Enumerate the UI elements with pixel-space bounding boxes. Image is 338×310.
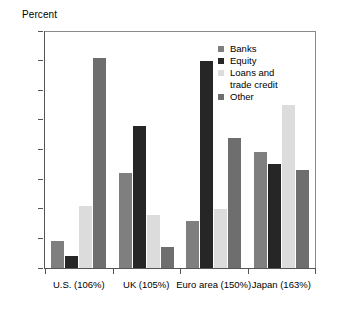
bar — [51, 241, 64, 268]
x-tick-mark — [315, 269, 316, 274]
x-tick-label: Japan (163%) — [221, 279, 338, 290]
bar — [254, 152, 267, 268]
y-tick-mark — [38, 60, 43, 61]
legend-swatch-icon — [218, 94, 224, 100]
legend-item: Loans and trade credit — [218, 67, 318, 90]
bar — [296, 170, 309, 268]
bar-chart: Percent 80706050403020100 U.S. (106%)UK … — [0, 0, 338, 310]
y-tick-mark — [38, 238, 43, 239]
bar — [228, 138, 241, 268]
legend-item: Banks — [218, 43, 318, 55]
legend-label: Banks — [230, 43, 256, 54]
legend-swatch-icon — [218, 70, 224, 76]
x-tick-mark — [248, 269, 249, 274]
bar — [268, 164, 281, 268]
bar — [93, 58, 106, 268]
y-axis-title: Percent — [22, 9, 57, 20]
x-tick-mark — [45, 269, 46, 274]
legend-swatch-icon — [218, 58, 224, 64]
bar — [147, 215, 160, 268]
bar — [133, 126, 146, 268]
bar — [65, 256, 78, 268]
y-tick-mark — [38, 268, 43, 269]
legend-label: Loans and trade credit — [230, 67, 278, 90]
bar — [161, 247, 174, 268]
bar — [79, 206, 92, 268]
y-tick-mark — [38, 119, 43, 120]
legend-swatch-icon — [218, 46, 224, 52]
y-tick-mark — [38, 208, 43, 209]
bar — [200, 61, 213, 268]
legend-label: Other — [230, 91, 254, 102]
y-tick-mark — [38, 90, 43, 91]
y-tick-mark — [38, 179, 43, 180]
legend: BanksEquityLoans and trade creditOther — [218, 43, 318, 103]
legend-item: Equity — [218, 55, 318, 67]
bar — [214, 209, 227, 268]
y-tick-mark — [38, 149, 43, 150]
y-tick-mark — [38, 31, 43, 32]
bar — [282, 105, 295, 268]
legend-item: Other — [218, 91, 318, 103]
bar — [119, 173, 132, 268]
x-tick-mark — [180, 269, 181, 274]
legend-label: Equity — [230, 55, 256, 66]
x-tick-mark — [113, 269, 114, 274]
bar — [186, 221, 199, 268]
